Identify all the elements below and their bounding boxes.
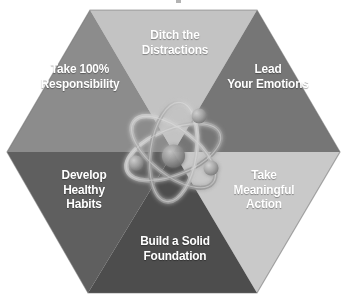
atom-electron-top bbox=[192, 109, 207, 124]
hexagon-infographic: Ditch the Distractions Take 100% Respons… bbox=[0, 0, 347, 302]
atom-nucleus bbox=[162, 145, 185, 168]
atom-electron-left bbox=[129, 156, 144, 171]
atom-electron-right bbox=[204, 161, 219, 176]
hexagon-diagram bbox=[0, 0, 347, 302]
